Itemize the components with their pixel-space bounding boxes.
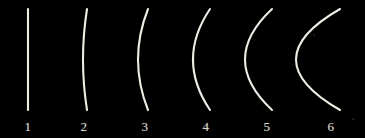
plate-background xyxy=(0,0,365,138)
emulsion-speck xyxy=(313,34,315,36)
emulsion-speck xyxy=(263,108,264,109)
emulsion-speck xyxy=(352,118,354,120)
plate-canvas: 123456 xyxy=(0,0,365,138)
curve-group xyxy=(0,0,365,138)
